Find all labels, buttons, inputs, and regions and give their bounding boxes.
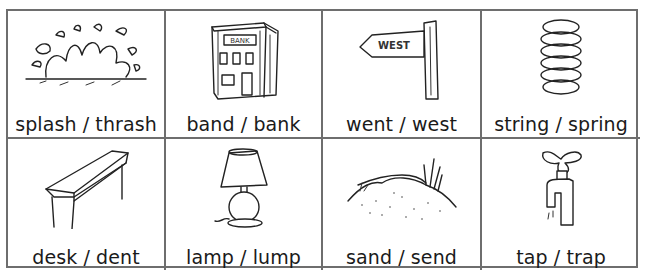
card-label: sand / send	[323, 246, 480, 268]
card-bank: BANK band / bank	[166, 11, 323, 139]
card-label: splash / thrash	[8, 113, 164, 135]
card-label: string / spring	[482, 113, 640, 135]
sand-dune-icon	[323, 143, 480, 231]
card-spring: string / spring	[482, 11, 640, 139]
signpost-icon: WEST	[323, 15, 480, 103]
svg-text:BANK: BANK	[230, 37, 250, 45]
card-label: desk / dent	[8, 246, 164, 268]
table-lamp-icon	[166, 143, 321, 231]
word-picture-grid: splash / thrash BANK band / bank	[6, 9, 638, 268]
card-label: went / west	[323, 113, 480, 135]
card-label: band / bank	[166, 113, 321, 135]
card-splash: splash / thrash	[8, 11, 166, 139]
card-sand: sand / send	[323, 139, 482, 270]
bank-building-icon: BANK	[166, 15, 321, 103]
svg-text:WEST: WEST	[378, 40, 410, 51]
card-lamp: lamp / lump	[166, 139, 323, 270]
card-label: lamp / lump	[166, 246, 321, 268]
card-desk: desk / dent	[8, 139, 166, 270]
desk-icon	[8, 143, 164, 231]
spring-coil-icon	[482, 15, 640, 103]
splash-icon	[8, 15, 164, 103]
card-tap: tap / trap	[482, 139, 640, 270]
water-tap-icon	[482, 143, 640, 231]
card-label: tap / trap	[482, 246, 640, 268]
card-west: WEST went / west	[323, 11, 482, 139]
